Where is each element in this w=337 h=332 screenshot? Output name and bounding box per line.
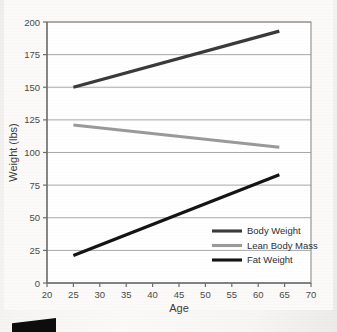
legend-label-2: Fat Weight	[247, 254, 293, 265]
x-tick-label-60: 60	[253, 289, 264, 300]
y-axis-tick-labels: 0255075100125150175200	[24, 17, 40, 289]
line-chart: 0255075100125150175200 20253035404550556…	[0, 0, 337, 332]
y-tick-label-200: 200	[24, 17, 40, 28]
y-tick-label-0: 0	[35, 278, 40, 289]
x-tick-label-35: 35	[121, 289, 132, 300]
y-axis-title: Weight (lbs)	[7, 123, 19, 181]
x-axis-tick-labels: 2025303540455055606570	[42, 289, 317, 300]
x-tick-label-40: 40	[147, 289, 158, 300]
x-tick-label-25: 25	[68, 289, 79, 300]
x-tick-label-45: 45	[174, 289, 185, 300]
x-tick-label-65: 65	[279, 289, 290, 300]
y-tick-label-125: 125	[24, 114, 40, 125]
x-tick-label-30: 30	[95, 289, 106, 300]
y-tick-label-75: 75	[29, 180, 40, 191]
x-tick-label-50: 50	[200, 289, 211, 300]
y-tick-label-150: 150	[24, 82, 40, 93]
chart-canvas: 0255075100125150175200 20253035404550556…	[0, 0, 337, 332]
legend-label-1: Lean Body Mass	[247, 240, 318, 251]
legend-label-0: Body Weight	[247, 225, 301, 236]
y-tick-label-50: 50	[29, 212, 40, 223]
y-tick-label-175: 175	[24, 49, 40, 60]
y-tick-label-100: 100	[24, 147, 40, 158]
x-tick-label-55: 55	[227, 289, 238, 300]
x-tick-label-20: 20	[42, 289, 53, 300]
x-tick-label-70: 70	[306, 289, 317, 300]
x-axis-title: Age	[169, 302, 189, 314]
y-tick-label-25: 25	[29, 245, 40, 256]
